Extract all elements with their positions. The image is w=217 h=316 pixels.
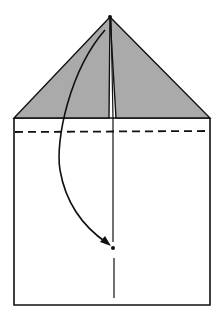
- vertical-center-crease: [113, 118, 114, 298]
- arrowhead-icon: [100, 236, 111, 246]
- paper-rectangle: [14, 118, 210, 305]
- apex-dot: [108, 15, 112, 19]
- left-triangle-flap: [14, 17, 110, 118]
- target-dot: [111, 246, 115, 250]
- right-triangle-flap: [110, 17, 210, 118]
- dashed-valley-fold-line: [15, 131, 208, 132]
- origami-diagram: [0, 0, 217, 316]
